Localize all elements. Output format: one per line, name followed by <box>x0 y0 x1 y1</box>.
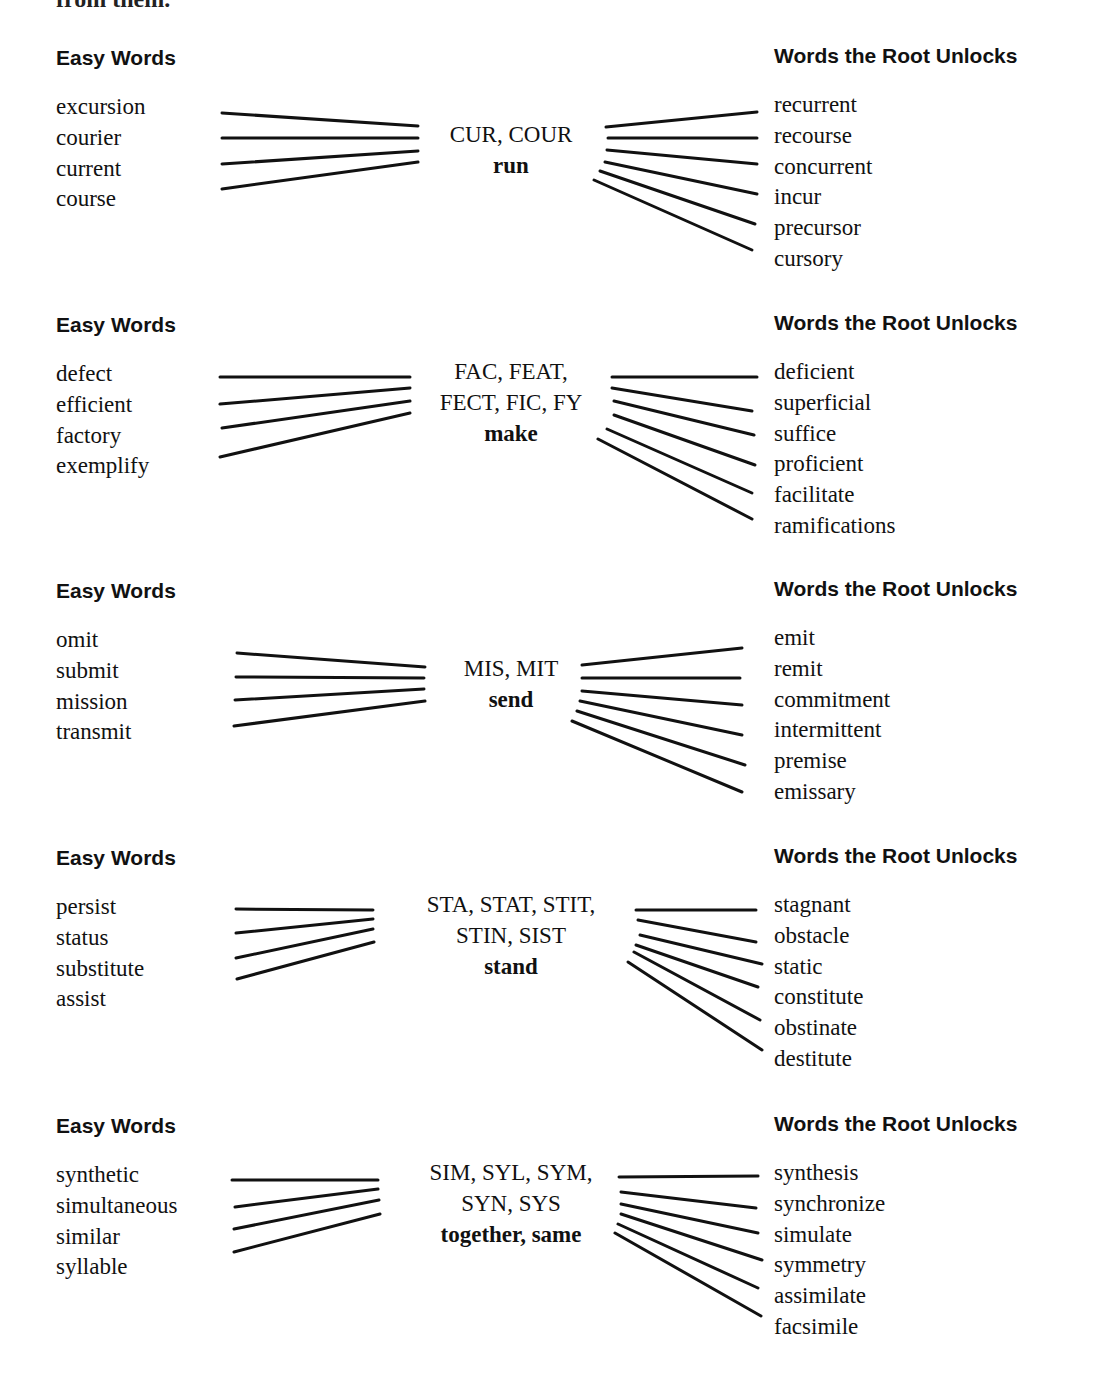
root-section: Easy WordsWords the Root Unlocksdefectef… <box>0 307 1115 572</box>
unlocked-connector-line <box>605 162 757 194</box>
unlocked-connector-line <box>607 150 757 164</box>
unlocked-connector-line <box>612 388 752 411</box>
easy-connector-line <box>220 413 410 457</box>
easy-connector-line <box>236 929 373 958</box>
easy-connector-line <box>234 701 425 726</box>
unlocked-connector-line <box>598 439 752 519</box>
easy-connector-line <box>220 388 410 404</box>
easy-connector-line <box>222 113 418 126</box>
root-section: Easy WordsWords the Root Unlockspersists… <box>0 840 1115 1105</box>
easy-connector-line <box>237 653 425 667</box>
unlocked-connector-line <box>615 1233 761 1316</box>
connector-lines <box>0 40 1115 305</box>
unlocked-connector-line <box>606 112 757 127</box>
root-section: Easy WordsWords the Root Unlockssyntheti… <box>0 1108 1115 1373</box>
unlocked-connector-line <box>582 648 742 665</box>
unlocked-connector-line <box>619 1176 758 1177</box>
connector-lines <box>0 1108 1115 1373</box>
easy-connector-line <box>222 401 410 428</box>
easy-connector-line <box>236 919 373 933</box>
root-section: Easy WordsWords the Root Unlocksexcursio… <box>0 40 1115 305</box>
unlocked-connector-line <box>621 1214 762 1260</box>
previous-text-fragment: from them. <box>56 0 170 13</box>
easy-connector-line <box>235 689 424 700</box>
unlocked-connector-line <box>628 962 762 1050</box>
unlocked-connector-line <box>621 1192 756 1208</box>
unlocked-connector-line <box>621 1204 758 1233</box>
connector-lines <box>0 573 1115 838</box>
easy-connector-line <box>237 942 374 979</box>
easy-connector-line <box>236 677 424 678</box>
unlocked-connector-line <box>614 401 754 435</box>
unlocked-connector-line <box>582 691 742 705</box>
root-section: Easy WordsWords the Root Unlocksomitsubm… <box>0 573 1115 838</box>
easy-connector-line <box>222 151 418 164</box>
connector-lines <box>0 840 1115 1105</box>
easy-connector-line <box>222 162 418 189</box>
unlocked-connector-line <box>618 1224 758 1288</box>
connector-lines <box>0 307 1115 572</box>
easy-connector-line <box>234 1214 380 1252</box>
unlocked-connector-line <box>634 952 760 1020</box>
easy-connector-line <box>236 909 373 910</box>
unlocked-connector-line <box>580 701 742 735</box>
